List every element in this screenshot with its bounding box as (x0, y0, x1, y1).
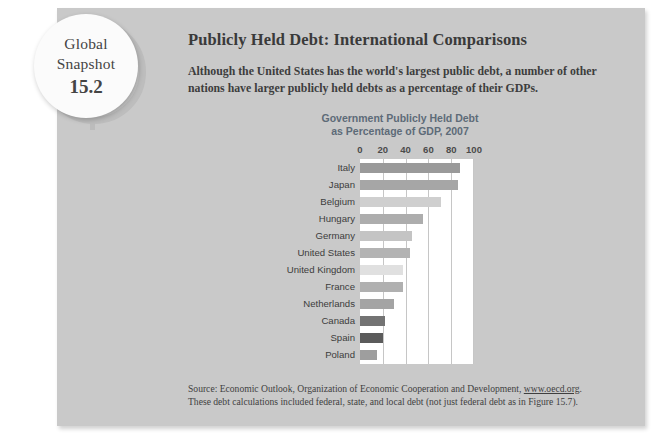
source-note: Source: Economic Outlook, Organization o… (188, 382, 628, 408)
page-title: Publicly Held Debt: International Compar… (188, 30, 608, 50)
chart-title-line-1: Government Publicly Held Debt (250, 112, 550, 125)
global-snapshot-badge: Global Snapshot 15.2 (30, 12, 152, 134)
bar-spain (360, 333, 383, 343)
bar-hungary (360, 214, 423, 224)
x-axis-ticks: 020406080100 (360, 144, 474, 158)
plot-wrapper: 020406080100 ItalyJapanBelgiumHungaryGer… (250, 144, 550, 366)
globe-disc: Global Snapshot 15.2 (34, 14, 138, 118)
gridline-20 (383, 159, 384, 364)
category-label-belgium: Belgium (320, 196, 355, 207)
category-label-united-kingdom: United Kingdom (287, 264, 355, 275)
chart-title: Government Publicly Held Debt as Percent… (250, 112, 550, 138)
source-line-2: These debt calculations included federal… (188, 395, 628, 408)
category-label-poland: Poland (325, 349, 355, 360)
bar-belgium (360, 197, 441, 207)
gridline-40 (406, 159, 407, 364)
bar-germany (360, 231, 412, 241)
badge-line-1: Global (64, 34, 107, 54)
page-subtitle: Although the United States has the world… (188, 63, 606, 97)
source-line-1-prefix: Source: Economic Outlook, Organization o… (188, 383, 524, 394)
category-label-japan: Japan (329, 179, 355, 190)
chart-title-line-2: as Percentage of GDP, 2007 (250, 125, 550, 138)
category-label-netherlands: Netherlands (303, 298, 355, 309)
bar-canada (360, 316, 385, 326)
badge-line-2: Snapshot (57, 54, 115, 74)
bar-netherlands (360, 299, 394, 309)
category-label-italy: Italy (337, 162, 355, 173)
chart: Government Publicly Held Debt as Percent… (250, 112, 550, 366)
plot-area: ItalyJapanBelgiumHungaryGermanyUnited St… (360, 159, 474, 364)
bar-italy (360, 163, 460, 173)
category-label-spain: Spain (330, 332, 355, 343)
bar-japan (360, 180, 458, 190)
oecd-link[interactable]: www.oecd.org (524, 383, 580, 394)
gridline-100 (473, 159, 474, 364)
x-tick-0: 0 (357, 144, 362, 155)
badge-number: 15.2 (69, 75, 102, 98)
bar-poland (360, 350, 377, 360)
gridline-60 (428, 159, 429, 364)
bar-united-kingdom (360, 265, 403, 275)
x-tick-20: 20 (378, 144, 389, 155)
category-label-germany: Germany (316, 230, 355, 241)
snapshot-figure: Global Snapshot 15.2 Publicly Held Debt:… (0, 0, 661, 444)
x-tick-100: 100 (466, 144, 482, 155)
x-tick-40: 40 (400, 144, 411, 155)
source-line-1-suffix: . (579, 383, 581, 394)
bar-united-states (360, 248, 410, 258)
x-tick-60: 60 (423, 144, 434, 155)
category-label-canada: Canada (321, 315, 355, 326)
gridline-80 (451, 159, 452, 364)
category-label-united-states: United States (297, 247, 355, 258)
category-label-hungary: Hungary (319, 213, 355, 224)
x-tick-80: 80 (446, 144, 457, 155)
source-line-1: Source: Economic Outlook, Organization o… (188, 382, 628, 395)
bar-france (360, 282, 403, 292)
category-label-france: France (325, 281, 355, 292)
